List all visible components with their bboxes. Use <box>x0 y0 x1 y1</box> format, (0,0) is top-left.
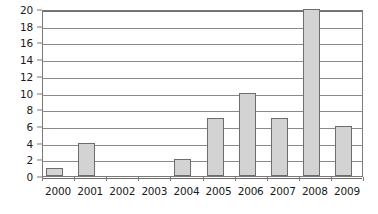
x-tick-mark <box>106 177 107 181</box>
x-tick-label: 2002 <box>109 186 135 197</box>
bar-2007[interactable] <box>271 118 288 176</box>
bar-slot <box>75 11 107 176</box>
x-tick-mark <box>42 177 43 181</box>
y-axis: 02468101214161820 <box>0 0 42 214</box>
bar-2001[interactable] <box>78 143 95 176</box>
x-tick-mark <box>74 177 75 181</box>
bar-slot <box>139 11 171 176</box>
x-tick-label: 2006 <box>238 186 264 197</box>
bar-slot <box>171 11 203 176</box>
bar-slot <box>204 11 236 176</box>
x-tick-label: 2000 <box>45 186 71 197</box>
y-tick-label: 18 <box>20 21 33 32</box>
x-tick-mark <box>363 177 364 181</box>
x-tick-mark <box>267 177 268 181</box>
y-tick-label: 20 <box>20 5 33 16</box>
y-tick-label: 16 <box>20 38 33 49</box>
x-tick-label: 2005 <box>206 186 232 197</box>
y-tick-label: 8 <box>27 105 33 116</box>
bar-slot <box>300 11 332 176</box>
x-tick-label: 2009 <box>334 186 360 197</box>
x-tick-mark <box>138 177 139 181</box>
bars-layer <box>43 11 362 176</box>
bar-slot <box>332 11 364 176</box>
x-tick-mark <box>235 177 236 181</box>
plot-area <box>42 10 363 177</box>
bar-2008[interactable] <box>303 9 320 176</box>
bar-slot <box>107 11 139 176</box>
x-tick-label: 2007 <box>270 186 296 197</box>
x-tick-mark <box>203 177 204 181</box>
y-tick-label: 12 <box>20 72 33 83</box>
x-tick-label: 2004 <box>173 186 199 197</box>
bar-chart: 02468101214161820 2000200120022003200420… <box>0 0 378 214</box>
x-tick-mark <box>299 177 300 181</box>
y-tick-label: 14 <box>20 55 33 66</box>
bar-slot <box>43 11 75 176</box>
bar-2009[interactable] <box>335 126 352 176</box>
bar-slot <box>268 11 300 176</box>
x-tick-label: 2003 <box>141 186 167 197</box>
bar-slot <box>236 11 268 176</box>
x-tick-label: 2008 <box>302 186 328 197</box>
x-tick-mark <box>331 177 332 181</box>
bar-2000[interactable] <box>46 168 63 176</box>
x-axis: 2000200120022003200420052006200720082009 <box>42 177 363 214</box>
bar-2005[interactable] <box>207 118 224 176</box>
y-tick-label: 4 <box>27 138 33 149</box>
bar-2006[interactable] <box>239 93 256 177</box>
y-tick-label: 0 <box>27 172 33 183</box>
y-tick-label: 10 <box>20 88 33 99</box>
y-tick-label: 6 <box>27 122 33 133</box>
bar-2004[interactable] <box>174 159 191 176</box>
x-tick-label: 2001 <box>77 186 103 197</box>
y-tick-label: 2 <box>27 155 33 166</box>
x-tick-mark <box>170 177 171 181</box>
